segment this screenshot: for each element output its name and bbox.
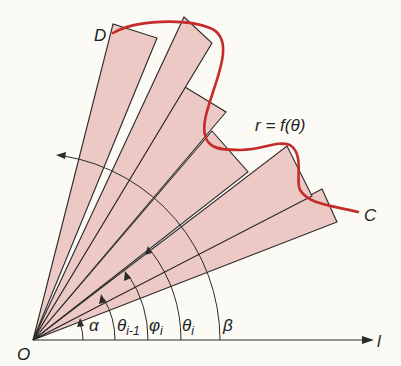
curve-label: r = f(θ)	[255, 116, 305, 135]
axis-label: l	[377, 332, 382, 351]
beta-label: β	[222, 316, 233, 335]
phi-label: φi	[149, 316, 163, 338]
sectors	[33, 17, 337, 340]
origin-label: O	[17, 345, 30, 364]
label-D: D	[94, 26, 106, 45]
alpha-label: α	[89, 316, 100, 335]
theta-label: θi	[182, 316, 194, 338]
beta-arrow-icon	[56, 152, 66, 159]
axis-arrowhead-icon	[362, 336, 374, 344]
theta-prev-subscript: i-1	[126, 324, 139, 338]
phi-symbol: φ	[149, 316, 160, 335]
phi-subscript: i	[160, 324, 163, 338]
label-C: C	[364, 206, 377, 225]
theta-subscript: i	[191, 324, 194, 338]
theta-prev-label: θi-1	[117, 316, 140, 338]
polar-area-diagram: D C r = f(θ) O l α θi-1 φi θi β	[0, 0, 401, 366]
